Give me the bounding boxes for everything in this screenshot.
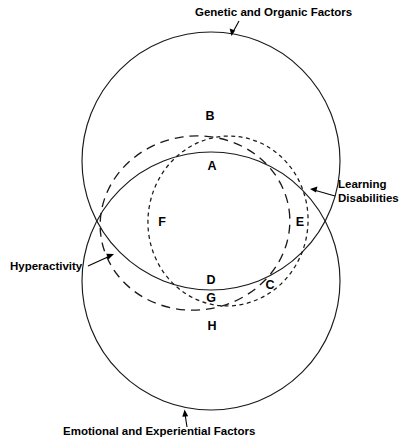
learning-disabilities-label-line2: Disabilities xyxy=(338,192,399,204)
learning-disabilities-ellipse[interactable] xyxy=(140,128,317,314)
region-label-a: A xyxy=(207,159,216,173)
learning-disabilities-label-line1: Learning xyxy=(338,178,387,190)
learning-disabilities-callout: Learning Disabilities xyxy=(310,178,399,204)
diagram-canvas: B A F E D C G H Genetic and Organic Fact… xyxy=(0,0,411,441)
region-label-f: F xyxy=(158,215,166,229)
venn-diagram-figure: B A F E D C G H Genetic and Organic Fact… xyxy=(0,0,411,441)
emotional-callout-arrowhead xyxy=(182,410,188,417)
hyperactivity-callout: Hyperactivity xyxy=(10,254,114,272)
region-label-b: B xyxy=(205,109,214,123)
emotional-and-experiential-factors-callout: Emotional and Experiential Factors xyxy=(63,410,255,438)
region-label-e: E xyxy=(296,215,304,229)
region-label-d: D xyxy=(206,273,215,287)
region-label-c: C xyxy=(265,278,274,292)
region-label-g: G xyxy=(206,291,216,305)
learning-disabilities-callout-arrowhead xyxy=(310,187,317,193)
learning-disabilities-callout-leader-line xyxy=(314,190,335,196)
emotional-and-experiential-factors-label: Emotional and Experiential Factors xyxy=(63,425,255,437)
genetic-and-organic-factors-label: Genetic and Organic Factors xyxy=(195,6,352,18)
hyperactivity-label: Hyperactivity xyxy=(10,260,83,272)
region-label-h: H xyxy=(207,319,216,333)
genetic-and-organic-factors-callout: Genetic and Organic Factors xyxy=(195,6,352,36)
hyperactivity-callout-leader-line xyxy=(88,256,110,266)
